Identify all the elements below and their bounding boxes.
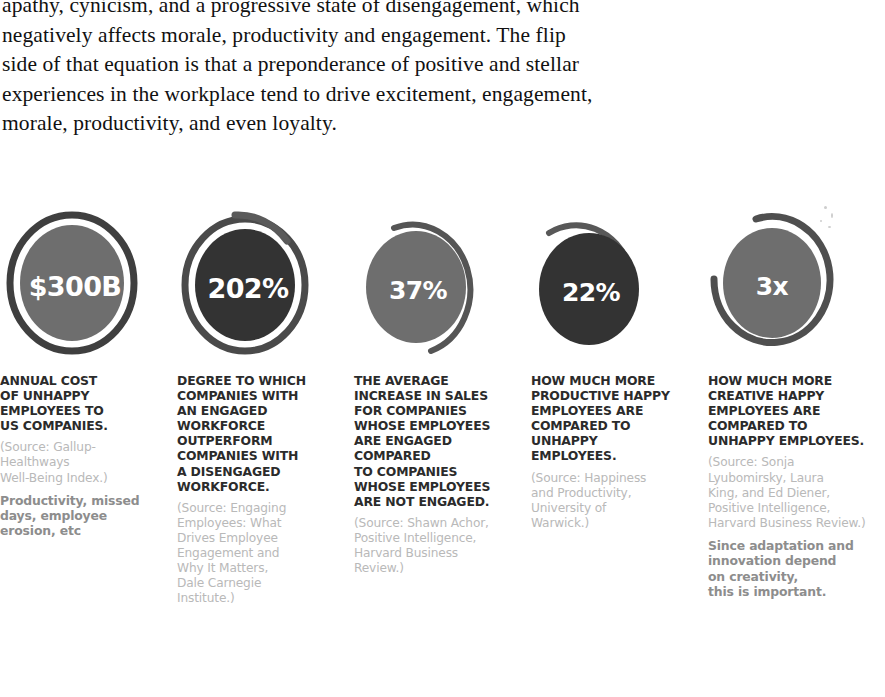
donut-svg-1: [0, 205, 150, 367]
donut-svg-4: [531, 205, 681, 367]
paragraph-line-3: side of that equation is that a preponde…: [2, 50, 882, 80]
paragraph-line-1: apathy, cynicism, and a progressive stat…: [2, 0, 882, 21]
stat-column-1: $300B ANNUAL COST OF UNHAPPY EMPLOYEES T…: [0, 205, 170, 613]
donut-svg-2: [177, 205, 327, 367]
stat-headline-1: ANNUAL COST OF UNHAPPY EMPLOYEES TO US C…: [0, 373, 170, 433]
stat-column-3: 37% THE AVERAGE INCREASE IN SALES FOR CO…: [354, 205, 524, 613]
body-paragraph: stellar experiences in the workplace ten…: [2, 0, 882, 139]
stat-source-3: (Source: Shawn Achor, Positive Intellige…: [354, 516, 524, 576]
stat-headline-2: DEGREE TO WHICH COMPANIES WITH AN ENGAGE…: [177, 373, 347, 494]
stat-headline-4: HOW MUCH MORE PRODUCTIVE HAPPY EMPLOYEES…: [531, 373, 701, 464]
stat-column-2: 202% DEGREE TO WHICH COMPANIES WITH AN E…: [177, 205, 347, 613]
stat-headline-3: THE AVERAGE INCREASE IN SALES FOR COMPAN…: [354, 373, 524, 509]
donut-chart-4: 22%: [531, 205, 681, 367]
stat-note-1: Productivity, missed days, employee eros…: [0, 493, 170, 539]
donut-svg-5: [708, 205, 868, 367]
donut-chart-5: 3x: [708, 205, 858, 367]
stat-column-5: 3x HOW MUCH MORE CREATIVE HAPPY EMPLOYEE…: [708, 205, 878, 613]
stats-row: $300B ANNUAL COST OF UNHAPPY EMPLOYEES T…: [0, 205, 885, 613]
stat-note-5: Since adaptation and innovation depend o…: [708, 538, 878, 600]
donut-chart-3: 37%: [354, 205, 504, 367]
stat-column-4: 22% HOW MUCH MORE PRODUCTIVE HAPPY EMPLO…: [531, 205, 701, 613]
stat-source-5: (Source: Sonja Lyubomirsky, Laura King, …: [708, 455, 878, 530]
stat-source-2: (Source: Engaging Employees: What Drives…: [177, 501, 347, 607]
stat-source-4: (Source: Happiness and Productivity, Uni…: [531, 471, 701, 531]
donut-svg-3: [354, 205, 504, 367]
donut-chart-2: 202%: [177, 205, 327, 367]
paragraph-line-2: negatively affects morale, productivity …: [2, 21, 882, 51]
paragraph-line-5: morale, productivity, and even loyalty.: [2, 109, 882, 139]
paragraph-line-4: experiences in the workplace tend to dri…: [2, 80, 882, 110]
stat-source-1: (Source: Gallup- Healthways Well-Being I…: [0, 440, 170, 485]
stat-headline-5: HOW MUCH MORE CREATIVE HAPPY EMPLOYEES A…: [708, 373, 878, 448]
donut-chart-1: $300B: [0, 205, 150, 367]
